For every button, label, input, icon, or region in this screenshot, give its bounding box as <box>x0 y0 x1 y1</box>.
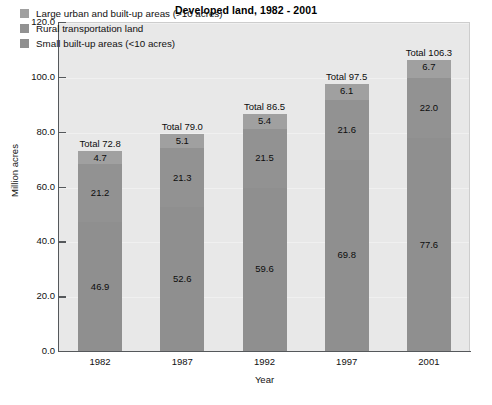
x-axis-tick-label: 2001 <box>394 356 464 367</box>
bar-total-label: Total 97.5 <box>301 71 393 82</box>
bar-segment[interactable]: 69.8 <box>325 160 369 351</box>
bar-segment[interactable]: 6.1 <box>325 84 369 101</box>
y-axis-tick <box>59 351 66 352</box>
bar-segment-value-label: 46.9 <box>78 282 122 292</box>
y-axis-tick <box>59 296 66 297</box>
x-axis-tick-label: 1992 <box>230 356 300 367</box>
legend-item-label: Large urban and built-up areas (>10 acre… <box>36 8 223 19</box>
bar-segment[interactable]: 77.6 <box>407 138 451 351</box>
chart-legend: Large urban and built-up areas (>10 acre… <box>20 6 223 51</box>
bar-segment[interactable]: 21.3 <box>160 148 204 206</box>
bar-segment-value-label: 4.7 <box>78 153 122 163</box>
legend-swatch-icon <box>20 9 29 18</box>
bar-segment-value-label: 69.8 <box>325 251 369 261</box>
bar-segment[interactable]: 6.7 <box>407 60 451 78</box>
bar-segment-value-label: 21.3 <box>160 173 204 183</box>
bar-stack[interactable]: 4.721.246.9Total 72.8 <box>78 151 122 351</box>
y-axis-tick-label: 20.0 <box>0 291 55 301</box>
bar-total-label: Total 86.5 <box>219 101 311 112</box>
legend-item[interactable]: Rural transportation land <box>20 21 223 36</box>
bar-segment[interactable]: 21.6 <box>325 100 369 159</box>
y-axis-title: Million acres <box>9 91 20 251</box>
legend-swatch-icon <box>20 39 29 48</box>
legend-item-label: Rural transportation land <box>36 23 143 34</box>
bar-segment[interactable]: 4.7 <box>78 151 122 164</box>
x-axis-title: Year <box>59 374 470 385</box>
y-axis-tick <box>59 187 66 188</box>
legend-item-label: Small built-up areas (<10 acres) <box>36 38 175 49</box>
bar-segment-value-label: 5.1 <box>160 136 204 146</box>
bar-stack[interactable]: 6.121.669.8Total 97.5 <box>325 84 369 351</box>
bar-segment-value-label: 6.1 <box>325 86 369 96</box>
bar-segment-value-label: 52.6 <box>160 274 204 284</box>
y-axis-tick <box>59 241 66 242</box>
bar-segment[interactable]: 52.6 <box>160 207 204 351</box>
legend-item[interactable]: Large urban and built-up areas (>10 acre… <box>20 6 223 21</box>
bar-segment[interactable]: 21.5 <box>243 129 287 188</box>
bar-stack[interactable]: 6.722.077.6Total 106.3 <box>407 60 451 351</box>
bar-segment[interactable]: 22.0 <box>407 78 451 138</box>
bar-segment-value-label: 6.7 <box>407 62 451 72</box>
bar-segment-value-label: 21.2 <box>78 189 122 199</box>
y-axis-tick-label: 100.0 <box>0 72 55 82</box>
bar-segment-value-label: 22.0 <box>407 103 451 113</box>
bar-segment[interactable]: 21.2 <box>78 164 122 222</box>
bar-segment-value-label: 77.6 <box>407 240 451 250</box>
legend-item[interactable]: Small built-up areas (<10 acres) <box>20 36 223 51</box>
x-axis-line <box>58 351 471 352</box>
bar-total-label: Total 72.8 <box>54 138 146 149</box>
bar-segment-value-label: 5.4 <box>243 116 287 126</box>
y-axis-tick <box>59 77 66 78</box>
chart-root: Developed land, 1982 - 2001 4.721.246.9T… <box>0 0 492 405</box>
legend-swatch-icon <box>20 24 29 33</box>
x-axis-tick-label: 1987 <box>147 356 217 367</box>
bar-segment[interactable]: 5.1 <box>160 134 204 148</box>
plot-area: 4.721.246.9Total 72.85.121.352.6Total 79… <box>59 22 470 351</box>
bar-stack[interactable]: 5.121.352.6Total 79.0 <box>160 134 204 351</box>
bar-segment-value-label: 59.6 <box>243 265 287 275</box>
bar-stack[interactable]: 5.421.559.6Total 86.5 <box>243 114 287 351</box>
y-axis-tick-label: 0.0 <box>0 346 55 356</box>
y-axis-tick <box>59 132 66 133</box>
bar-segment[interactable]: 5.4 <box>243 114 287 129</box>
plot-inner: 4.721.246.9Total 72.85.121.352.6Total 79… <box>59 23 469 351</box>
bar-segment-value-label: 21.6 <box>325 125 369 135</box>
bar-segment-value-label: 21.5 <box>243 153 287 163</box>
bar-total-label: Total 79.0 <box>136 121 228 132</box>
x-axis-tick-label: 1997 <box>312 356 382 367</box>
bar-total-label: Total 106.3 <box>383 47 475 58</box>
bar-segment[interactable]: 59.6 <box>243 188 287 351</box>
bar-segment[interactable]: 46.9 <box>78 222 122 351</box>
x-axis-tick-label: 1982 <box>65 356 135 367</box>
